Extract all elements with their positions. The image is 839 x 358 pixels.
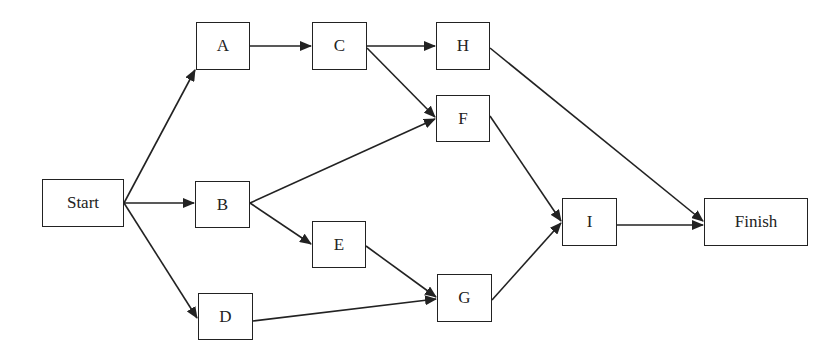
edge-layer	[0, 0, 839, 358]
node-i: I	[562, 198, 617, 246]
node-b: B	[195, 181, 250, 228]
node-label: Start	[67, 193, 99, 213]
edge-g-to-i-arrow-icon	[492, 223, 561, 300]
node-d: D	[198, 293, 253, 340]
edge-b-to-f-arrow-icon	[250, 119, 435, 203]
edge-d-to-g-arrow-icon	[253, 299, 436, 321]
edge-f-to-i-arrow-icon	[490, 116, 561, 221]
node-c: C	[312, 22, 367, 70]
edge-h-to-finish-arrow-icon	[490, 48, 703, 221]
node-f: F	[436, 95, 490, 142]
node-h: H	[436, 22, 490, 70]
node-label: E	[334, 235, 344, 255]
edge-e-to-g-arrow-icon	[366, 246, 436, 297]
node-finish: Finish	[704, 198, 808, 246]
node-label: A	[217, 36, 229, 56]
network-diagram: Start A B C D E F G H I Finish	[0, 0, 839, 358]
node-start: Start	[42, 179, 124, 227]
edge-start-to-a-arrow-icon	[124, 70, 195, 203]
node-label: D	[219, 307, 231, 327]
edge-b-to-e-arrow-icon	[250, 203, 311, 244]
node-label: B	[217, 195, 228, 215]
edge-c-to-f-arrow-icon	[367, 48, 435, 117]
node-label: Finish	[735, 212, 778, 232]
node-label: F	[458, 109, 467, 129]
node-label: G	[458, 288, 470, 308]
node-label: H	[457, 36, 469, 56]
node-g: G	[437, 274, 492, 322]
node-a: A	[196, 22, 250, 70]
node-e: E	[312, 221, 366, 268]
node-label: C	[334, 36, 345, 56]
edge-start-to-d-arrow-icon	[124, 203, 197, 318]
node-label: I	[587, 212, 593, 232]
